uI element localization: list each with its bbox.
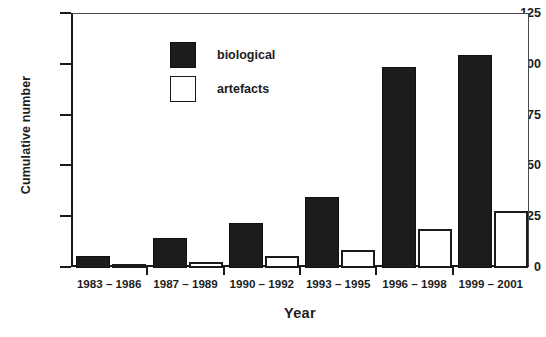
bar-biological <box>76 256 110 268</box>
bar-artefacts <box>494 211 528 268</box>
x-axis-title: Year <box>71 305 529 321</box>
legend-item-biological: biological <box>170 38 275 72</box>
bar-artefacts <box>189 262 223 268</box>
x-axis-tick <box>223 267 225 275</box>
x-axis-tick <box>146 267 148 275</box>
x-axis-tick <box>299 267 301 275</box>
bar-artefacts <box>112 264 146 268</box>
bar-biological <box>382 67 416 268</box>
y-axis-tick <box>60 215 71 217</box>
plot-area: biological artefacts <box>71 13 529 267</box>
x-axis-tick-label: 1999 – 2001 <box>436 277 546 290</box>
legend-item-artefacts: artefacts <box>170 72 275 106</box>
x-axis-tick <box>375 267 377 275</box>
bar-biological <box>305 197 339 268</box>
legend: biological artefacts <box>170 38 275 106</box>
bar-biological <box>153 238 187 268</box>
bar-biological <box>229 223 263 268</box>
y-axis-title: Cumulative number <box>19 45 33 225</box>
bar-artefacts <box>418 229 452 268</box>
bar-artefacts <box>265 256 299 268</box>
legend-swatch-artefacts-icon <box>170 76 196 102</box>
y-axis-tick <box>60 63 71 65</box>
bar-biological <box>458 55 492 268</box>
y-axis-tick <box>60 114 71 116</box>
legend-swatch-biological-icon <box>170 42 196 68</box>
y-axis-tick <box>60 164 71 166</box>
bar-artefacts <box>341 250 375 268</box>
x-axis-tick <box>452 267 454 275</box>
legend-label-biological: biological <box>217 48 275 62</box>
legend-label-artefacts: artefacts <box>217 82 269 96</box>
y-axis-tick <box>60 12 71 14</box>
y-axis-tick <box>60 266 71 268</box>
